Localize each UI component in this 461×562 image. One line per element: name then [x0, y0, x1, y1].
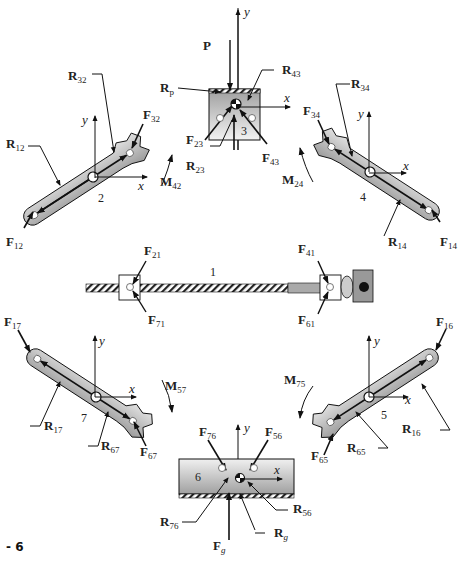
link-number-3: 3 — [241, 124, 247, 138]
label-M42: M42 — [160, 174, 181, 191]
axis-x-7: x — [128, 381, 135, 396]
axis-y-6: y — [242, 420, 250, 435]
diagram-canvas: P Rp R43 F23 F43 R23 y x 3 R32 R12 F32 F… — [0, 0, 461, 562]
label-F71: F71 — [148, 312, 165, 329]
label-R23: R23 — [186, 158, 205, 175]
link-2 — [16, 130, 152, 233]
label-R16: R16 — [402, 421, 421, 438]
label-R65: R65 — [347, 440, 366, 457]
label-R12: R12 — [6, 136, 24, 153]
axis-y-5: y — [372, 333, 380, 348]
link-number-7: 7 — [81, 411, 87, 425]
axis-y-2: y — [80, 112, 88, 127]
label-F61: F61 — [298, 312, 315, 329]
label-R56: R56 — [293, 501, 312, 518]
free-body-diagram: P Rp R43 F23 F43 R23 y x 3 R32 R12 F32 F… — [0, 0, 461, 562]
figure-caption-fragment: - 6 — [6, 540, 24, 554]
label-M57: M57 — [165, 378, 187, 395]
label-R32: R32 — [68, 68, 86, 85]
axis-x-2: x — [137, 178, 144, 193]
label-R34: R34 — [351, 76, 370, 93]
label-M75: M75 — [284, 372, 306, 389]
axis-x-6: x — [273, 462, 280, 477]
label-F56: F56 — [265, 424, 282, 441]
axis-x-4: x — [402, 158, 409, 173]
link-number-2: 2 — [98, 191, 104, 205]
label-R17: R17 — [44, 418, 63, 435]
label-Rg: Rg — [274, 525, 288, 542]
label-F67: F67 — [140, 444, 157, 461]
label-F43: F43 — [262, 150, 279, 167]
label-R14: R14 — [388, 234, 407, 251]
axis-y-7: y — [97, 333, 105, 348]
label-R76: R76 — [160, 514, 179, 531]
label-F14: F14 — [440, 234, 457, 251]
label-F21: F21 — [144, 243, 161, 260]
link-number-1: 1 — [210, 265, 216, 279]
label-R67: R67 — [101, 438, 120, 455]
label-F12: F12 — [6, 234, 23, 251]
link-3-block — [178, 8, 290, 150]
label-F23: F23 — [186, 132, 203, 149]
label-F16: F16 — [436, 314, 453, 331]
link-5 — [308, 339, 444, 442]
label-Rp: Rp — [160, 80, 174, 97]
link-1-rod — [86, 261, 373, 314]
label-Fg: Fg — [213, 538, 226, 555]
label-F34: F34 — [303, 103, 320, 120]
label-P: P — [203, 38, 211, 53]
label-F41: F41 — [298, 241, 315, 258]
label-F76: F76 — [199, 424, 216, 441]
axis-x-3: x — [283, 90, 290, 105]
label-F32: F32 — [143, 107, 160, 124]
label-F17: F17 — [4, 314, 21, 331]
label-R43: R43 — [282, 62, 301, 79]
label-M24: M24 — [282, 172, 304, 189]
link-number-4: 4 — [360, 190, 366, 204]
link-number-5: 5 — [381, 408, 387, 422]
link-4 — [310, 125, 446, 228]
axis-y-3: y — [242, 4, 250, 19]
link-number-6: 6 — [195, 470, 201, 484]
axis-y-4: y — [356, 106, 364, 121]
axis-x-5: x — [404, 392, 411, 407]
